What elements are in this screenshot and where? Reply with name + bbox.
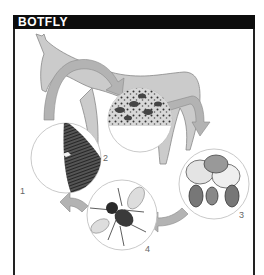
stage-4-circle bbox=[87, 180, 157, 250]
stage-2-label: 2 bbox=[103, 153, 108, 163]
stage-1-label: 1 bbox=[20, 186, 25, 196]
stage-3-label: 3 bbox=[239, 210, 244, 220]
stage-3-circle bbox=[179, 149, 249, 219]
stage-4-label: 4 bbox=[145, 244, 150, 254]
